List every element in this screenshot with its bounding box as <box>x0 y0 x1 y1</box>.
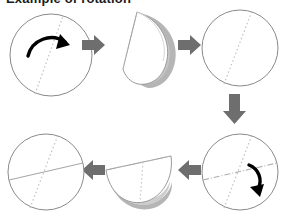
diagram-canvas: Example of rotation <box>0 0 282 224</box>
arrow-left-icon <box>178 160 201 180</box>
step-2-folded-half-right <box>104 8 184 92</box>
diagram-title: Example of rotation <box>6 0 131 6</box>
step-4-circle-two-creases-rotation <box>200 130 280 214</box>
step-5-folded-half-bottom <box>100 148 178 216</box>
arrow-right-icon <box>178 35 201 55</box>
folded-paper-face <box>123 12 168 84</box>
arrow-down-icon <box>223 94 246 124</box>
circle-outline <box>10 14 92 96</box>
arrow-down-step3-to-step4 <box>222 93 248 125</box>
step-6-circle-two-creases-final <box>6 130 86 214</box>
circle-outline <box>202 10 278 86</box>
step-3-circle-one-crease <box>200 8 280 88</box>
arrow-right-icon <box>82 35 105 55</box>
arrow-left-step4-to-step5 <box>176 158 202 182</box>
